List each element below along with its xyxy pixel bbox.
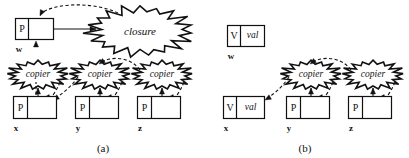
panel-b-arrow-y-to-copier-y-head xyxy=(308,88,313,94)
panel-a-dash-closure-to-w-head xyxy=(40,10,45,17)
panel-b-cell-tag-w: V xyxy=(230,31,237,41)
panel-a-var-label-x: x xyxy=(14,124,19,133)
panel-b-cell-value-w: val xyxy=(247,31,259,41)
panel-b-cell-value-x: val xyxy=(245,103,257,113)
panel-b-caption: (b) xyxy=(299,143,312,154)
panel-b-cell-tag-y: P xyxy=(291,103,297,113)
panel-a-cell-tag-w: P xyxy=(19,24,25,34)
panel-b-blob-label-copier-z: copier xyxy=(361,70,385,80)
panel-a-blob-label-copier-z: copier xyxy=(150,70,174,80)
panel-b-var-label-z: z xyxy=(349,124,353,133)
panel-b-var-label-x: x xyxy=(224,124,229,133)
panel-b-arrow-z-to-copier-z-head xyxy=(370,88,375,94)
panel-b-var-label-y: y xyxy=(287,124,292,133)
panel-a-cell-tag-y: P xyxy=(80,103,86,113)
figure-root: closurecopiercopiercopierPwPxPyPz(a)copi… xyxy=(0,0,409,158)
panel-a-blob-label-copier-x: copier xyxy=(26,70,50,80)
panel-a-arrow-y-to-copier-y-head xyxy=(97,88,102,94)
panel-a-blob-label-closure: closure xyxy=(124,26,156,37)
panel-a-var-label-w: w xyxy=(16,45,23,54)
panel-a-cell-tag-x: P xyxy=(18,103,24,113)
panel-a-caption: (a) xyxy=(97,143,109,154)
panel-a-arrow-z-to-copier-z-head xyxy=(159,88,164,94)
panel-b-cell-tag-x: V xyxy=(226,103,233,113)
panel-b-var-label-w: w xyxy=(228,52,235,61)
panel-b-blob-label-copier-y: copier xyxy=(299,70,323,80)
panel-a-var-label-y: y xyxy=(76,124,81,133)
panel-b-dash-copier-y-to-x-head xyxy=(265,95,271,100)
panel-a-var-label-z: z xyxy=(138,124,142,133)
panel-a-blob-label-copier-y: copier xyxy=(88,70,112,80)
panel-a-dash-copier-x-to-w-head xyxy=(33,41,38,47)
panel-a xyxy=(7,5,192,119)
figure-canvas xyxy=(0,0,409,158)
panel-a-cell-tag-z: P xyxy=(142,103,148,113)
panel-b-cell-tag-z: P xyxy=(353,103,359,113)
